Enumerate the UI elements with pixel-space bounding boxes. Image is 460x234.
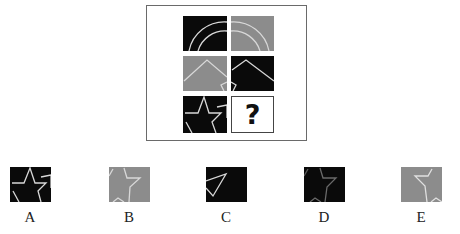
option-a-label: A [10,209,50,226]
grid-tile-r1c2 [231,16,274,51]
grid-tile-r3c1 [183,96,227,133]
option-c-label: C [206,209,246,226]
grid-tile-r2c2 [231,56,274,91]
star-outline-icon [183,96,227,133]
option-d-tile[interactable] [304,167,345,202]
option-e-label: E [401,209,441,226]
grid-tile-r1c1 [183,16,227,51]
option-d-label: D [304,209,344,226]
option-a-tile[interactable] [10,167,51,202]
chevron-roof-icon [183,56,227,91]
star-partial-icon [109,167,150,202]
question-mark: ? [245,101,261,128]
option-b-tile[interactable] [109,167,150,202]
double-arc-icon [231,16,274,51]
chevron-roof-icon [231,56,274,91]
star-partial-icon [304,167,345,202]
star-partial-icon [401,167,442,202]
option-e-tile[interactable] [401,167,442,202]
grid-tile-r2c1 [183,56,227,91]
option-c-tile[interactable] [206,167,247,202]
double-arc-icon [183,16,227,51]
option-b-label: B [109,209,149,226]
answer-placeholder-tile: ? [231,96,274,133]
star-outline-icon [10,167,51,202]
triangle-icon [206,167,247,202]
